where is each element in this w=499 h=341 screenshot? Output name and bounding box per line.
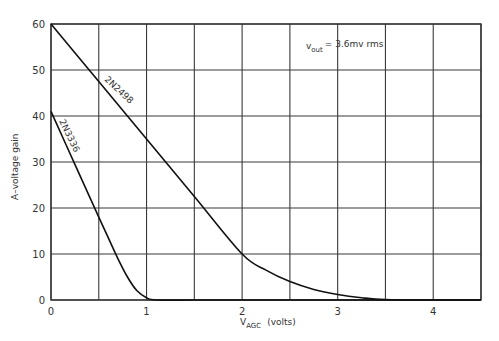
x-tick-label: 4 <box>430 306 436 317</box>
y-tick-label: 10 <box>32 249 45 260</box>
curve-2n3336 <box>51 111 481 300</box>
x-axis-label: VAGC(volts) <box>240 317 296 330</box>
svg-text:vout= 3.6mv rms: vout= 3.6mv rms <box>306 39 384 54</box>
y-tick-label: 30 <box>32 157 45 168</box>
grid-lines <box>51 24 481 300</box>
y-tick-label: 0 <box>39 295 45 306</box>
y-tick-label: 50 <box>32 65 45 76</box>
x-axis-ticks: 01234 <box>48 306 437 317</box>
y-tick-label: 20 <box>32 203 45 214</box>
y-axis-label: A–voltage gain <box>10 133 20 200</box>
curve-label-2n2498: 2N2498 <box>103 74 136 106</box>
curve-label-2n3336: 2N3336 <box>57 117 82 153</box>
y-axis-ticks: 0102030405060 <box>32 19 45 306</box>
gain-vs-agc-chart: 0102030405060 01234 A–voltage gain VAGC(… <box>0 0 499 341</box>
x-tick-label: 3 <box>334 306 340 317</box>
x-tick-label: 0 <box>48 306 54 317</box>
y-tick-label: 40 <box>32 111 45 122</box>
y-tick-label: 60 <box>32 19 45 30</box>
svg-text:VAGC(volts): VAGC(volts) <box>240 317 296 330</box>
annotation-vout: vout= 3.6mv rms <box>306 39 384 54</box>
x-tick-label: 1 <box>143 306 149 317</box>
x-tick-label: 2 <box>239 306 245 317</box>
